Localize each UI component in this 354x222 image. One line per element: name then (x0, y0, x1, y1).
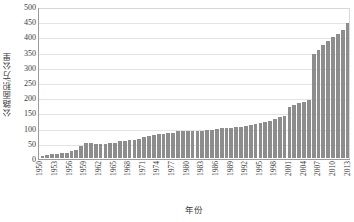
bar-series (40, 8, 350, 158)
bar (133, 140, 137, 158)
bar (45, 155, 49, 158)
bar (74, 150, 78, 158)
bar (220, 128, 224, 158)
bar (79, 146, 83, 158)
x-axis-tick-label: 2010 (329, 161, 337, 176)
bar (297, 103, 301, 158)
y-axis-title-text: 公路面积/万公里 (2, 52, 14, 117)
x-axis-tick-label: 1989 (227, 161, 235, 176)
y-axis-tick-label: 50 (28, 141, 36, 149)
bar (210, 130, 214, 158)
bar (60, 153, 64, 158)
bar (278, 117, 282, 158)
y-axis-tick-label: 100 (24, 126, 36, 134)
bar (249, 125, 253, 158)
bar (200, 131, 204, 158)
bar (157, 134, 161, 158)
y-axis-tick-labels: 500450400350300250200150100500 (14, 8, 38, 160)
bar (254, 124, 258, 158)
x-axis-tick-labels: 1950195319561959196219651968197119741977… (38, 161, 350, 201)
x-axis-tick-label: 2001 (285, 161, 293, 176)
x-axis-tick-label: 1974 (153, 161, 161, 176)
bar (283, 116, 287, 158)
bar (205, 130, 209, 158)
bar (162, 134, 166, 158)
bar (215, 129, 219, 158)
x-axis-tick-label: 1980 (183, 161, 191, 176)
y-axis-tick-label: 150 (24, 110, 36, 118)
bar (341, 30, 345, 158)
x-axis-tick-label: 1965 (110, 161, 118, 176)
bar (55, 154, 59, 158)
bar (321, 45, 325, 158)
x-axis-tick-label: 1962 (95, 161, 103, 176)
bar (292, 105, 296, 158)
bar (268, 121, 272, 158)
bar (273, 119, 277, 158)
bar (326, 41, 330, 158)
bar (147, 136, 151, 158)
x-axis-tick-label: 1959 (80, 161, 88, 176)
x-axis-tick-label: 1968 (124, 161, 132, 176)
bar (171, 133, 175, 158)
bar (336, 34, 340, 158)
bar (108, 143, 112, 158)
bar (191, 131, 195, 158)
x-axis-tick-label: 2007 (314, 161, 322, 176)
bar (346, 23, 350, 158)
bar (166, 133, 170, 158)
bar (104, 144, 108, 158)
axis-artifact-mark (37, 52, 40, 61)
bar (239, 127, 243, 158)
bar (234, 127, 238, 158)
bar (312, 54, 316, 158)
y-axis-tick-label: 450 (24, 19, 36, 27)
x-axis-tick-label: 1998 (270, 161, 278, 176)
bar (65, 153, 69, 158)
bar (123, 141, 127, 158)
y-axis-tick-label: 500 (24, 4, 36, 12)
bar (331, 37, 335, 158)
bar (307, 100, 311, 158)
bar (288, 107, 292, 158)
x-axis-tick-label: 1977 (168, 161, 176, 176)
bar (50, 154, 54, 158)
bar (152, 135, 156, 158)
x-axis-title: 年份 (38, 203, 350, 215)
bar (89, 143, 93, 158)
y-axis-tick-label: 200 (24, 95, 36, 103)
bar (94, 144, 98, 158)
x-axis-tick-label: 1995 (256, 161, 264, 176)
bar (302, 102, 306, 158)
bar (118, 141, 122, 158)
bar (259, 123, 263, 158)
bar (70, 151, 74, 158)
bar-chart: 公路面积/万公里 500450400350300250200150100500 … (0, 0, 354, 222)
bar (99, 144, 103, 158)
bar (137, 139, 141, 158)
x-axis-tick-label: 1986 (212, 161, 220, 176)
x-axis-tick-label: 1983 (197, 161, 205, 176)
bar (41, 156, 45, 158)
bar (186, 131, 190, 158)
bar (84, 143, 88, 158)
bar (196, 131, 200, 158)
x-axis-tick-label: 1953 (51, 161, 59, 176)
y-axis-tick-label: 350 (24, 50, 36, 58)
bar (128, 140, 132, 158)
plot-area (38, 8, 350, 160)
y-axis-tick-label: 300 (24, 65, 36, 73)
bar (229, 128, 233, 159)
bar (225, 128, 229, 158)
x-axis-tick-label: 1992 (241, 161, 249, 176)
x-axis-tick-label: 1971 (139, 161, 147, 176)
x-axis-tick-label: 1950 (36, 161, 44, 176)
bar (142, 137, 146, 158)
bar (244, 126, 248, 158)
bar (317, 50, 321, 158)
bar (176, 131, 180, 158)
x-axis-tick-label: 2004 (300, 161, 308, 176)
x-axis-tick-label: 2013 (344, 161, 352, 176)
bar (113, 143, 117, 158)
bar (181, 131, 185, 158)
